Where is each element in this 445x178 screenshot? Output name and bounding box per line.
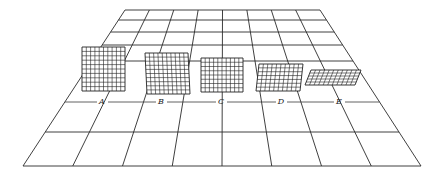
floor-column-line <box>320 10 421 166</box>
panel-label: C <box>218 97 224 106</box>
perspective-diagram: ABCDE <box>0 0 445 178</box>
panel-c: C <box>201 58 243 106</box>
panel-a: A <box>82 47 125 106</box>
panel-label: B <box>157 97 164 106</box>
diagram-canvas: ABCDE <box>0 0 445 178</box>
panel-label: E <box>335 97 342 106</box>
panel-d: D <box>256 64 303 106</box>
panel-label: D <box>277 97 285 106</box>
floor-column-line <box>296 10 372 166</box>
panels-group: ABCDE <box>82 47 361 106</box>
panel-label: A <box>98 97 105 106</box>
